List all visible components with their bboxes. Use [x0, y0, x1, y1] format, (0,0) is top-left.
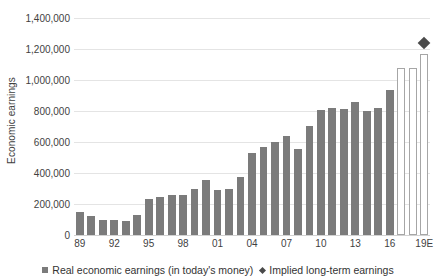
legend-square-icon	[42, 267, 48, 273]
legend-entry[interactable]: Implied long-term earnings	[260, 264, 393, 276]
x-tick-label: 92	[109, 238, 120, 249]
x-tick-label: 10	[315, 238, 326, 249]
legend-label: Implied long-term earnings	[269, 264, 393, 276]
x-tick-label: 01	[212, 238, 223, 249]
legend-diamond-icon	[259, 266, 266, 273]
x-tick-label: 95	[143, 238, 154, 249]
x-tick-label: 07	[281, 238, 292, 249]
y-tick-label: 200,000	[34, 199, 70, 210]
x-tick-label: 89	[74, 238, 85, 249]
y-tick-label: 0	[64, 230, 70, 241]
implied-long-term-earnings-marker	[418, 36, 431, 49]
y-axis-title-label: Economic earnings	[6, 77, 17, 164]
gridline	[74, 235, 430, 236]
y-tick-label: 800,000	[34, 106, 70, 117]
x-tick-label: 98	[178, 238, 189, 249]
legend-entry[interactable]: Real economic earnings (in today's money…	[42, 264, 253, 276]
chart-legend: Real economic earnings (in today's money…	[0, 260, 436, 280]
y-tick-label: 1,200,000	[26, 44, 71, 55]
plot-area	[74, 18, 430, 235]
legend-label: Real economic earnings (in today's money…	[52, 264, 253, 276]
y-tick-label: 1,000,000	[26, 75, 71, 86]
markers-layer	[74, 18, 430, 235]
y-tick-label: 1,400,000	[26, 13, 71, 24]
y-tick-label: 600,000	[34, 137, 70, 148]
x-tick-label: 19E	[415, 238, 433, 249]
x-tick-label: 13	[350, 238, 361, 249]
x-tick-label: 16	[384, 238, 395, 249]
x-tick-label: 04	[246, 238, 257, 249]
y-axis-tick-labels: 0200,000400,000600,000800,0001,000,0001,…	[18, 0, 74, 240]
economic-earnings-chart: Economic earnings 0200,000400,000600,000…	[0, 0, 436, 280]
y-tick-label: 400,000	[34, 168, 70, 179]
x-axis-tick-labels: 8992959801040710131619E	[74, 238, 430, 254]
